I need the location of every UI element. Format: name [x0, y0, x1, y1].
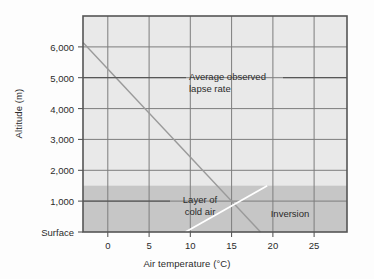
- lapse-rate-annotation: Average observed lapse rate: [189, 71, 266, 94]
- x-tick-label-15: 15: [226, 240, 237, 251]
- cold-air-annotation-line2: cold air: [183, 206, 217, 218]
- y-tick-label-2000: 2,000: [18, 165, 74, 176]
- lapse-rate-annotation-line2: lapse rate: [189, 83, 266, 95]
- y-tick-label-3000: 3,000: [18, 134, 74, 145]
- x-axis-title: Air temperature (°C): [0, 258, 374, 269]
- x-tick-label-10: 10: [185, 240, 196, 251]
- x-tick-label-5: 5: [146, 240, 151, 251]
- y-tick-label-5000: 5,000: [18, 72, 74, 83]
- inversion-annotation: Inversion: [271, 208, 310, 220]
- x-tick-label-20: 20: [268, 240, 279, 251]
- y-tick-label-surface: Surface: [18, 227, 74, 238]
- cold-air-annotation-line1: Layer of: [183, 194, 217, 206]
- cold-air-annotation: Layer of cold air: [183, 194, 217, 217]
- lapse-rate-annotation-line1: Average observed: [189, 71, 266, 83]
- y-tick-label-1000: 1,000: [18, 196, 74, 207]
- y-tick-label-4000: 4,000: [18, 103, 74, 114]
- x-tick-label-25: 25: [309, 240, 320, 251]
- chart-figure: Altitude (m) Air temperature (°C) Surfac…: [0, 0, 374, 279]
- y-tick-label-6000: 6,000: [18, 41, 74, 52]
- x-tick-label-0: 0: [105, 240, 110, 251]
